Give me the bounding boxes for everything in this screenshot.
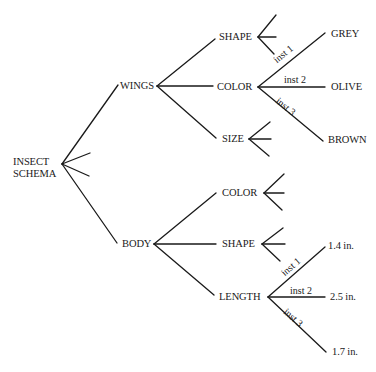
root-label-line1: INSECT	[13, 156, 49, 168]
wings-color-inst2-label: inst 2	[284, 74, 306, 85]
edge-body-length	[154, 244, 214, 295]
edge-wings-size	[157, 86, 216, 138]
wings-color-label: COLOR	[217, 81, 252, 93]
root-edges	[62, 85, 118, 243]
body-label: BODY	[122, 238, 151, 250]
wings-edges	[157, 39, 216, 138]
wings-color-value-grey: GREY	[331, 28, 359, 40]
edge-wings-shape	[157, 39, 215, 86]
tree-edges	[0, 0, 376, 372]
wings-shape-stubs	[258, 15, 276, 54]
body-length-inst2-label: inst 2	[290, 285, 312, 296]
body-edges	[154, 193, 216, 295]
wings-label: WINGS	[120, 80, 154, 92]
body-shape-stubs	[262, 228, 285, 261]
body-color-stubs	[264, 174, 284, 210]
wings-size-stubs	[249, 122, 271, 156]
body-length-value-1: 1.4 in.	[328, 240, 354, 252]
body-color-label: COLOR	[222, 187, 257, 199]
body-shape-label: SHAPE	[222, 238, 255, 250]
wings-size-label: SIZE	[222, 133, 244, 145]
wings-shape-label: SHAPE	[219, 31, 252, 43]
body-length-label: LENGTH	[219, 291, 260, 303]
root-label-line2: SCHEMA	[13, 168, 56, 180]
insect-schema-tree-diagram: INSECT SCHEMA WINGS SHAPE COLOR SIZE ins…	[0, 0, 376, 372]
body-length-value-3: 1.7 in.	[332, 346, 358, 358]
wings-color-value-olive: OLIVE	[331, 81, 362, 93]
wings-color-value-brown: BROWN	[328, 134, 367, 146]
edge-body-color	[154, 193, 216, 244]
edge-root-wings	[62, 85, 118, 164]
body-length-value-2: 2.5 in.	[330, 291, 356, 303]
